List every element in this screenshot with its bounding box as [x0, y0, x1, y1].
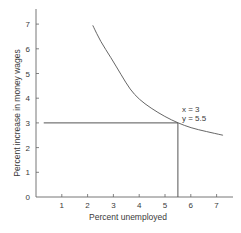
x-tick-label: 4 [137, 201, 142, 210]
x-tick-label: 2 [85, 201, 90, 210]
annotation-x: x = 3 [182, 105, 200, 114]
x-axis-title: Percent unemployed [89, 212, 167, 222]
x-axis-ticks: 1234567 [60, 194, 220, 210]
y-tick-label: 3 [26, 119, 31, 128]
y-axis-ticks: 01234567 [26, 20, 39, 202]
phillips-curve-chart: 1234567 01234567 x = 3 y = 5.5 Percent u… [0, 0, 241, 233]
x-tick-label: 5 [163, 201, 168, 210]
x-tick-label: 1 [60, 201, 65, 210]
y-tick-label: 1 [26, 168, 31, 177]
y-tick-label: 5 [26, 70, 31, 79]
y-tick-label: 4 [26, 94, 31, 103]
x-tick-label: 6 [189, 201, 194, 210]
y-tick-label: 7 [26, 20, 31, 29]
annotation-y: y = 5.5 [182, 114, 207, 123]
y-tick-label: 0 [26, 193, 31, 202]
y-axis-title: Percent increase in money wages [12, 49, 22, 177]
x-tick-label: 7 [214, 201, 219, 210]
y-tick-label: 2 [26, 144, 31, 153]
x-tick-label: 3 [111, 201, 116, 210]
y-tick-label: 6 [26, 45, 31, 54]
